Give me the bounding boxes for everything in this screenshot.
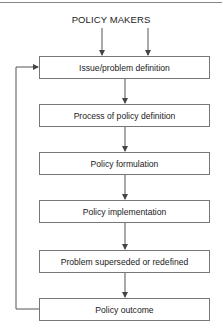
step-policy-formulation: Policy formulation: [39, 152, 210, 175]
step-policy-outcome: Policy outcome: [39, 298, 210, 321]
step-problem-superseded-or-redefined: Problem superseded or redefined: [39, 250, 210, 273]
step-issue-problem-definition: Issue/problem definition: [39, 56, 210, 79]
step-process-of-policy-definition: Process of policy definition: [39, 104, 210, 127]
step-policy-implementation: Policy implementation: [39, 200, 210, 223]
